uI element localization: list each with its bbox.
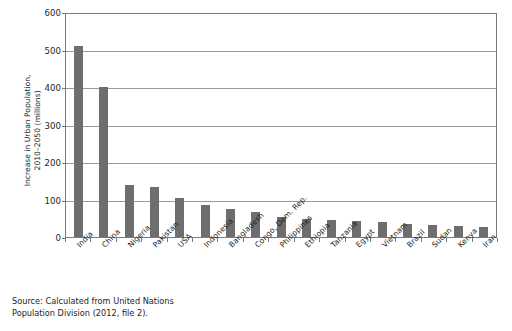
bar-slot	[268, 13, 293, 237]
bar-series	[66, 13, 496, 237]
bar[interactable]	[454, 226, 463, 237]
bar-slot	[192, 13, 217, 237]
y-tick-label: 0	[21, 233, 61, 243]
bar-slot	[117, 13, 142, 237]
bar[interactable]	[479, 227, 488, 237]
bar-slot	[243, 13, 268, 237]
bar-slot	[445, 13, 470, 237]
bar-slot	[395, 13, 420, 237]
source-note: Source: Calculated from United Nations P…	[12, 296, 174, 319]
plot-area	[65, 13, 497, 238]
y-tick-label: 300	[21, 121, 61, 131]
bar-slot	[370, 13, 395, 237]
bar-slot	[471, 13, 496, 237]
x-axis-tick-labels: IndiaChinaNigeriaPakistanUSAIndonesiaBan…	[65, 243, 497, 303]
bar[interactable]	[175, 198, 184, 237]
x-tick-mark	[65, 238, 66, 242]
y-tick-label: 100	[21, 196, 61, 206]
bar-chart-figure: Increase in Urban Population, 2010–2050 …	[0, 0, 512, 331]
bar-slot	[167, 13, 192, 237]
bar-slot	[218, 13, 243, 237]
y-tick-label: 500	[21, 46, 61, 56]
bar-slot	[319, 13, 344, 237]
bar-slot	[344, 13, 369, 237]
clipped-title-remnant	[64, 0, 364, 2]
bar-slot	[66, 13, 91, 237]
bar-slot	[142, 13, 167, 237]
bar[interactable]	[125, 185, 134, 238]
bar-slot	[91, 13, 116, 237]
bar[interactable]	[378, 222, 387, 237]
bar-slot	[420, 13, 445, 237]
bar[interactable]	[99, 87, 108, 237]
bar[interactable]	[74, 46, 83, 237]
bar[interactable]	[201, 205, 210, 237]
y-tick-label: 200	[21, 158, 61, 168]
y-tick-label: 400	[21, 83, 61, 93]
y-tick-label: 600	[21, 8, 61, 18]
